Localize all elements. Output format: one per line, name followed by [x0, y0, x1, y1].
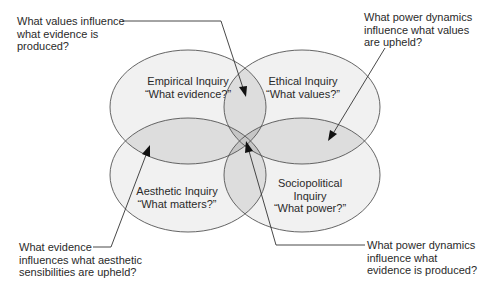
callout-line: What power dynamics	[367, 239, 477, 252]
sociopolitical-question: “What power?”	[260, 202, 360, 215]
callout-line: influence what	[367, 252, 477, 265]
callout-line: influences what aesthetic	[19, 254, 142, 267]
callout-line: evidence is produced?	[367, 264, 477, 277]
aesthetic-question: “What matters?”	[127, 198, 227, 211]
callout-line: What values influence	[17, 15, 125, 28]
callout-line: influence what values	[364, 24, 472, 37]
empirical-label: Empirical Inquiry “What evidence?”	[138, 75, 238, 100]
ethical-title: Ethical Inquiry	[253, 75, 353, 88]
callout-line: sensibilities are upheld?	[19, 266, 142, 279]
callout-line: produced?	[17, 40, 125, 53]
callout-values-evidence: What values influence what evidence is p…	[17, 15, 125, 53]
callout-line: What evidence	[19, 241, 142, 254]
sociopolitical-title-line2: Inquiry	[260, 190, 360, 203]
callout-line: are upheld?	[364, 36, 472, 49]
aesthetic-title: Aesthetic Inquiry	[127, 185, 227, 198]
callout-power-values: What power dynamics influence what value…	[364, 11, 472, 49]
callout-evidence-aesthetic: What evidence influences what aesthetic …	[19, 241, 142, 279]
sociopolitical-label: Sociopolitical Inquiry “What power?”	[260, 177, 360, 215]
aesthetic-label: Aesthetic Inquiry “What matters?”	[127, 185, 227, 210]
callout-power-evidence: What power dynamics influence what evide…	[367, 239, 477, 277]
callout-line: What power dynamics	[364, 11, 472, 24]
sociopolitical-title-line1: Sociopolitical	[260, 177, 360, 190]
callout-line: what evidence is	[17, 28, 125, 41]
ethical-label: Ethical Inquiry “What values?”	[253, 75, 353, 100]
empirical-question: “What evidence?”	[138, 88, 238, 101]
ethical-question: “What values?”	[253, 88, 353, 101]
empirical-title: Empirical Inquiry	[138, 75, 238, 88]
